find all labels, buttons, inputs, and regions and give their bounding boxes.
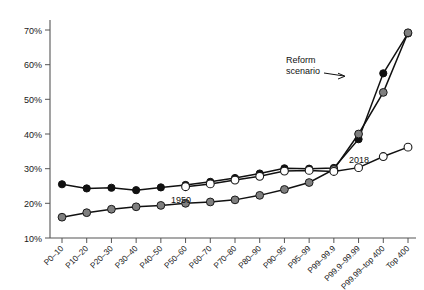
data-point-marker bbox=[206, 180, 214, 188]
y-tick-label: 70% bbox=[24, 26, 42, 36]
data-point-marker bbox=[108, 205, 116, 213]
reform-scenario-label-line2: scenario bbox=[286, 66, 320, 76]
x-tick-label: P40–50 bbox=[138, 244, 165, 271]
data-point-marker bbox=[58, 213, 66, 221]
data-point-marker bbox=[157, 184, 164, 191]
data-point-marker bbox=[206, 198, 214, 206]
x-tick-label: Top 400 bbox=[384, 244, 411, 271]
y-tick-label: 50% bbox=[24, 95, 42, 105]
data-point-marker bbox=[83, 209, 91, 217]
data-point-marker bbox=[404, 29, 412, 37]
data-point-marker bbox=[132, 203, 140, 211]
data-point-marker bbox=[157, 202, 165, 210]
data-point-marker bbox=[330, 168, 338, 176]
data-point-marker bbox=[108, 184, 115, 191]
series-2018 bbox=[182, 143, 412, 190]
data-point-marker bbox=[305, 167, 313, 175]
series-1950 bbox=[58, 29, 412, 221]
series-label-1950: 1950 bbox=[171, 195, 191, 205]
data-point-marker bbox=[182, 183, 190, 191]
data-point-marker bbox=[133, 187, 140, 194]
y-tick-label: 10% bbox=[24, 234, 42, 244]
x-tick-label: P10–20 bbox=[64, 244, 91, 271]
data-point-marker bbox=[281, 167, 289, 175]
x-tick-label: P80–90 bbox=[237, 244, 264, 271]
data-point-marker bbox=[355, 130, 363, 138]
data-point-marker bbox=[256, 191, 264, 199]
x-tick-label: P0–10 bbox=[42, 244, 65, 267]
chart-container: 70% 60% 50% 40% 30% 20% 10% Reform scena… bbox=[0, 0, 424, 290]
y-tick-label: 40% bbox=[24, 130, 42, 140]
series-label-2018: 2018 bbox=[349, 155, 369, 165]
x-tick-label: P90–95 bbox=[262, 244, 289, 271]
data-point-marker bbox=[379, 153, 387, 161]
x-tick-label: P50–60 bbox=[163, 244, 190, 271]
reform-scenario-label-line1: Reform bbox=[286, 55, 316, 65]
data-point-marker bbox=[231, 176, 239, 184]
x-tick-label: P70–80 bbox=[212, 244, 239, 271]
effective-tax-rate-line-chart: 70% 60% 50% 40% 30% 20% 10% Reform scena… bbox=[0, 0, 424, 290]
y-tick-label: 20% bbox=[24, 199, 42, 209]
reform-scenario-arrow bbox=[324, 73, 345, 79]
data-point-marker bbox=[231, 196, 239, 204]
data-point-marker bbox=[379, 89, 387, 97]
y-axis-labels: 70% 60% 50% 40% 30% 20% 10% bbox=[24, 26, 42, 244]
x-axis-labels: P0–10P10–20P20–30P30–40P40–50P50–60P60–7… bbox=[42, 244, 411, 290]
data-point-marker bbox=[83, 185, 90, 192]
y-tick-label: 30% bbox=[24, 164, 42, 174]
y-tick-marks bbox=[45, 30, 50, 238]
y-tick-label: 60% bbox=[24, 60, 42, 70]
data-point-marker bbox=[256, 172, 264, 180]
x-tick-label: P60–70 bbox=[187, 244, 214, 271]
x-tick-label: P99.99–top 400 bbox=[339, 244, 387, 290]
x-tick-label: P30–40 bbox=[113, 244, 140, 271]
data-point-marker bbox=[281, 186, 289, 194]
data-series-layer bbox=[58, 29, 412, 221]
data-point-marker bbox=[380, 70, 387, 77]
x-tick-label: P20–30 bbox=[89, 244, 116, 271]
data-point-marker bbox=[58, 181, 65, 188]
data-point-marker bbox=[404, 143, 412, 151]
x-tick-marks bbox=[62, 238, 408, 243]
data-point-marker bbox=[305, 179, 313, 187]
